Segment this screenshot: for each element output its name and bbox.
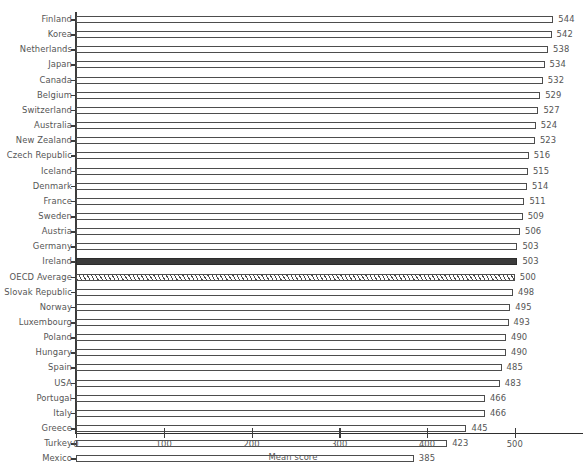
value-label-switzerland: 527	[543, 103, 559, 118]
value-label-hungary: 490	[511, 345, 527, 360]
bar-row: Spain485	[0, 360, 586, 375]
x-axis-tick	[427, 428, 428, 438]
bar-row: Czech Republic516	[0, 148, 586, 163]
x-axis-tick	[252, 428, 253, 438]
bar-row: Belgium529	[0, 88, 586, 103]
value-label-denmark: 514	[532, 179, 548, 194]
bar-canada	[76, 77, 543, 84]
bar-spain	[76, 364, 502, 371]
value-label-australia: 524	[541, 118, 557, 133]
value-label-spain: 485	[507, 360, 523, 375]
bar-luxembourg	[76, 319, 509, 326]
value-label-austria: 506	[525, 224, 541, 239]
value-label-luxembourg: 493	[514, 315, 530, 330]
bar-austria	[76, 228, 520, 235]
bar-row: Netherlands538	[0, 42, 586, 57]
bar-norway	[76, 304, 510, 311]
value-label-norway: 495	[515, 300, 531, 315]
bar-iceland	[76, 168, 528, 175]
bar-slovak-republic	[76, 289, 513, 296]
bar-row: Portugal466	[0, 391, 586, 406]
bar-row: Sweden509	[0, 209, 586, 224]
value-label-slovak-republic: 498	[518, 285, 534, 300]
x-axis-tick-label: 500	[507, 439, 523, 449]
category-label-slovak-republic: Slovak Republic	[4, 285, 72, 300]
value-label-portugal: 466	[490, 391, 506, 406]
x-axis-line	[75, 433, 583, 434]
category-label-belgium: Belgium	[37, 88, 72, 103]
category-label-greece: Greece	[42, 421, 72, 436]
bar-australia	[76, 122, 536, 129]
bar-belgium	[76, 92, 540, 99]
value-label-new-zealand: 523	[540, 133, 556, 148]
category-label-spain: Spain	[48, 360, 72, 375]
bar-poland	[76, 334, 506, 341]
value-label-canada: 532	[548, 73, 564, 88]
bar-italy	[76, 410, 485, 417]
category-label-turkey: Turkey	[44, 436, 72, 451]
bar-ireland	[76, 258, 517, 265]
bar-row: Italy466	[0, 406, 586, 421]
x-axis-tick-label: 0	[73, 439, 78, 449]
value-label-czech-republic: 516	[534, 148, 550, 163]
category-label-iceland: Iceland	[41, 164, 72, 179]
value-label-belgium: 529	[545, 88, 561, 103]
bar-row: Turkey423	[0, 436, 586, 451]
bar-row: Slovak Republic498	[0, 285, 586, 300]
bar-czech-republic	[76, 152, 529, 159]
bar-row: Australia524	[0, 118, 586, 133]
x-axis-tick	[515, 428, 516, 438]
x-axis-title: Mean score	[0, 452, 586, 462]
bar-row: Luxembourg493	[0, 315, 586, 330]
category-label-korea: Korea	[48, 27, 72, 42]
category-label-portugal: Portugal	[37, 391, 73, 406]
bar-new-zealand	[76, 137, 535, 144]
x-axis-tick	[339, 428, 340, 438]
bar-row: Germany503	[0, 239, 586, 254]
plot-area: Finland544Korea542Netherlands538Japan534…	[0, 0, 586, 464]
bar-finland	[76, 16, 553, 23]
category-label-czech-republic: Czech Republic	[7, 148, 72, 163]
value-label-iceland: 515	[533, 164, 549, 179]
x-axis-tick-label: 200	[244, 439, 260, 449]
category-label-germany: Germany	[33, 239, 72, 254]
bar-row: France511	[0, 194, 586, 209]
value-label-poland: 490	[511, 330, 527, 345]
value-label-italy: 466	[490, 406, 506, 421]
value-label-sweden: 509	[528, 209, 544, 224]
x-axis-tick-label: 100	[156, 439, 172, 449]
bar-row: Canada532	[0, 73, 586, 88]
bar-switzerland	[76, 107, 538, 114]
x-axis-tick	[76, 428, 77, 438]
category-label-austria: Austria	[42, 224, 72, 239]
bar-row: USA483	[0, 376, 586, 391]
category-label-poland: Poland	[43, 330, 72, 345]
x-axis-tick	[164, 428, 165, 438]
bar-france	[76, 198, 524, 205]
bar-row: Ireland503	[0, 254, 586, 269]
bar-japan	[76, 61, 545, 68]
bar-row: Norway495	[0, 300, 586, 315]
bar-greece	[76, 425, 466, 432]
category-label-netherlands: Netherlands	[20, 42, 72, 57]
bar-germany	[76, 243, 517, 250]
value-label-korea: 542	[557, 27, 573, 42]
bar-row: Iceland515	[0, 164, 586, 179]
category-label-ireland: Ireland	[42, 254, 72, 269]
bar-row: Japan534	[0, 57, 586, 72]
value-label-germany: 503	[522, 239, 538, 254]
value-label-japan: 534	[550, 57, 566, 72]
value-label-finland: 544	[558, 12, 574, 27]
bar-sweden	[76, 213, 523, 220]
bar-korea	[76, 31, 552, 38]
x-axis-tick-label: 400	[419, 439, 435, 449]
bar-turkey	[76, 440, 447, 447]
bar-hungary	[76, 349, 506, 356]
x-axis-tick-label: 300	[331, 439, 347, 449]
bar-row: Finland544	[0, 12, 586, 27]
value-label-turkey: 423	[452, 436, 468, 451]
category-label-luxembourg: Luxembourg	[19, 315, 72, 330]
category-label-usa: USA	[54, 376, 72, 391]
bar-row: Switzerland527	[0, 103, 586, 118]
bar-usa	[76, 380, 500, 387]
